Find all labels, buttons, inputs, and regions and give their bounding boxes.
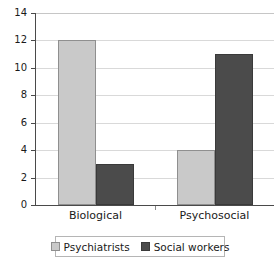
y-axis-tick-label: 6 <box>4 118 27 128</box>
y-axis-tick-label: 8 <box>4 90 27 100</box>
chart-legend: PsychiatristsSocial workers <box>55 236 225 257</box>
bar-psychosocial-social-workers <box>215 54 253 205</box>
legend-item-psychiatrists: Psychiatrists <box>51 241 130 253</box>
bar-chart: 02468101214 BiologicalPsychosocial Psych… <box>0 0 278 263</box>
x-axis-category-label: Biological <box>36 209 156 223</box>
y-axis-tick-label: 10 <box>4 63 27 73</box>
y-axis-tick-label: 2 <box>4 173 27 183</box>
plot-area <box>36 14 274 205</box>
legend-label: Psychiatrists <box>64 241 130 253</box>
y-axis-tick-label: 4 <box>4 145 27 155</box>
x-axis-tick <box>155 206 156 210</box>
y-axis-tick-label: 14 <box>4 8 27 18</box>
bar-biological-psychiatrists <box>58 40 96 205</box>
bar-psychosocial-psychiatrists <box>177 150 215 205</box>
legend-swatch-icon <box>141 242 150 251</box>
x-axis-category-label: Psychosocial <box>155 209 275 223</box>
legend-label: Social workers <box>154 241 230 253</box>
y-axis-tick-label: 0 <box>4 200 27 210</box>
legend-item-social-workers: Social workers <box>141 241 230 253</box>
legend-swatch-icon <box>51 242 60 251</box>
bar-biological-social-workers <box>96 164 134 205</box>
y-axis-tick-label: 12 <box>4 35 27 45</box>
